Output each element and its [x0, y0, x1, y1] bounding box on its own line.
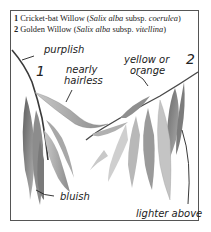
label-bluish: bluish [60, 191, 90, 202]
lighter-above-leader-line [182, 130, 189, 204]
label-nearly: nearly [66, 64, 97, 75]
specimen-1-number: 1 [36, 64, 45, 78]
hairless-leader-line [66, 90, 72, 102]
willow-leaves-illustration [0, 0, 211, 232]
label-orange: orange [130, 65, 165, 76]
label-yellow-or: yellow or [124, 54, 169, 65]
label-lighter-above: lighter above [136, 208, 202, 219]
purplish-leader-line [22, 56, 34, 60]
specimen-2-number: 2 [186, 52, 195, 66]
specimen-2-twig [86, 72, 198, 200]
label-hairless: hairless [64, 75, 103, 86]
label-purplish: purplish [44, 44, 84, 55]
